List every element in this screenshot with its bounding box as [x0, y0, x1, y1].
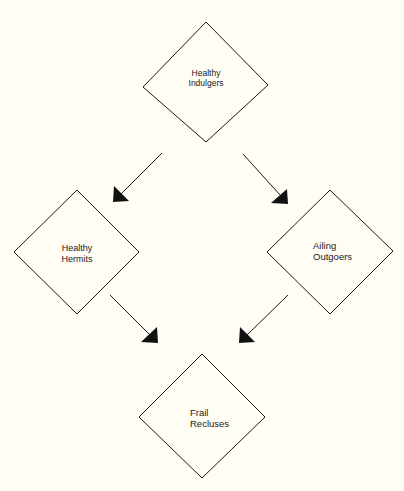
label-line: Healthy	[47, 243, 107, 254]
arrow-indulgers-to-outgoers	[243, 154, 288, 204]
node-healthy-hermits-label: Healthy Hermits	[47, 243, 107, 265]
arrow-outgoers-to-recluses	[239, 295, 288, 343]
label-line: Hermits	[47, 254, 107, 265]
label-line: Ailing	[313, 240, 352, 251]
label-line: Outgoers	[313, 251, 352, 262]
label-line: Indulgers	[176, 78, 236, 88]
arrow-hermits-to-recluses	[110, 295, 158, 343]
node-ailing-outgoers-label: Ailing Outgoers	[313, 240, 352, 262]
node-frail-recluses-label: Frail Recluses	[190, 407, 229, 429]
label-line: Healthy	[176, 68, 236, 78]
label-line: Recluses	[190, 418, 229, 429]
arrowhead-icon	[141, 327, 158, 343]
node-healthy-indulgers-label: Healthy Indulgers	[176, 68, 236, 88]
arrow-indulgers-to-hermits	[113, 153, 162, 202]
arrowhead-icon	[271, 189, 288, 204]
label-line: Frail	[190, 407, 229, 418]
